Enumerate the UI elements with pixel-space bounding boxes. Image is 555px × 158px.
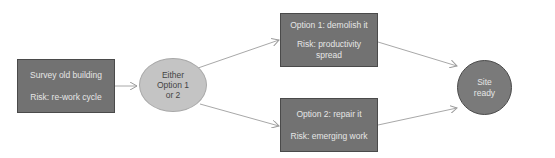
option2-risk: Risk: emerging work: [291, 131, 368, 141]
site-ready-line1: Site: [477, 77, 492, 87]
option2-node: Option 2: repair it Risk: emerging work: [280, 98, 378, 152]
decision-node: Either Option 1 or 2: [139, 58, 207, 112]
option1-node: Option 1: demolish it Risk: productivity…: [280, 13, 378, 67]
site-ready-node: Site ready: [457, 60, 512, 115]
survey-title: Survey old building: [30, 70, 102, 80]
edge-option1-to-site: [378, 42, 457, 66]
option1-risk-line1: Risk: productivity: [297, 39, 361, 49]
option1-risk-line2: spread: [316, 50, 342, 60]
decision-line3: or 2: [166, 90, 181, 100]
option2-title: Option 2: repair it: [296, 109, 361, 119]
decision-line1: Either: [162, 70, 184, 80]
edge-decision-to-option1: [198, 40, 279, 68]
decision-line2: Option 1: [157, 80, 189, 90]
survey-risk: Risk: re-work cycle: [30, 92, 101, 102]
edge-decision-to-option2: [200, 104, 279, 126]
survey-node: Survey old building Risk: re-work cycle: [17, 59, 115, 113]
option1-title: Option 1: demolish it: [290, 20, 367, 30]
site-ready-line2: ready: [474, 88, 495, 98]
edge-option2-to-site: [378, 108, 457, 125]
